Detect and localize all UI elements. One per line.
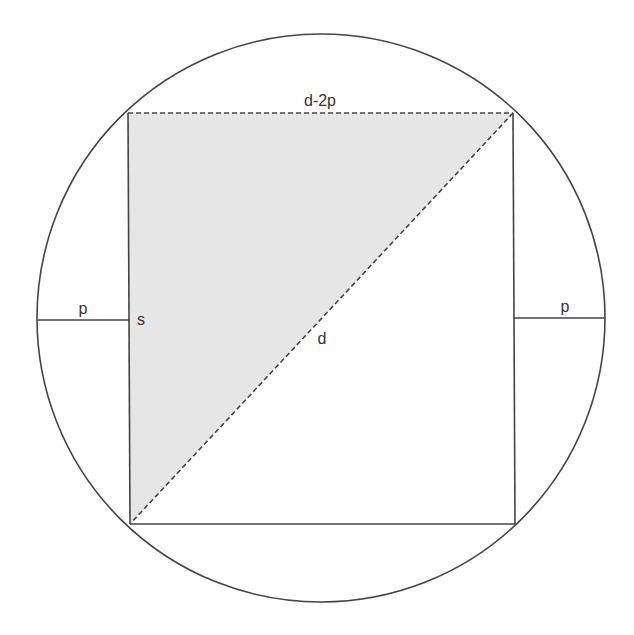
left-gap-label: p	[79, 300, 88, 317]
right-gap-label: p	[561, 298, 570, 315]
diagonal-label: d	[318, 330, 327, 347]
diagram-canvas: d-2p p p s d	[0, 0, 634, 635]
top-edge-label: d-2p	[304, 92, 336, 109]
side-label: s	[137, 311, 145, 328]
